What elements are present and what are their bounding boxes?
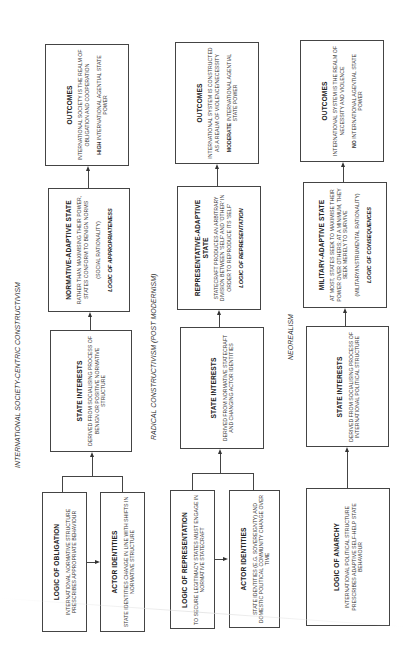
interests-title: STATE INTERESTS xyxy=(335,330,343,443)
state-title: REPRESENTATIVE-ADAPTIVE STATE xyxy=(194,190,209,306)
outcomes-title: OUTCOMES xyxy=(196,46,204,160)
interests-box-isc: STATE INTERESTS DERIVED FROM SOCIALISING… xyxy=(50,330,132,452)
logic-box-nr: LOGIC OF ANARCHY INTERNATIONAL POLITICAL… xyxy=(306,488,390,626)
outcomes-title: OUTCOMES xyxy=(66,48,74,162)
state-desc: STATECRAFT PRODUCES AN ARBITRARY DIVISIO… xyxy=(213,190,232,306)
state-logic: LOGIC OF APPROPRIATENESS xyxy=(107,192,113,308)
outcomes-power: NO INTERNATIONAL AGENTIAL STATE POWER xyxy=(351,44,363,158)
connector xyxy=(62,476,63,492)
arrow-up-icon xyxy=(88,312,92,317)
outcomes-box-nr: OUTCOMES INTERNATIONAL SYSTEM IS THE REA… xyxy=(300,40,384,162)
outcomes-box-rc: OUTCOMES INTERNATIONAL SYSTEM IS CONSTRU… xyxy=(175,42,259,164)
identities-box-isc: ACTOR IDENTITIES STATE IDENTITIES CHANGE… xyxy=(100,492,145,632)
logic-title: LOGIC OF REPRESENTATION xyxy=(180,494,188,625)
interests-desc: DERIVED FROM NORMATIVE STATECRAFT AND CH… xyxy=(222,331,234,445)
logic-box-isc: LOGIC OF OBLIGATION INTERNATIONAL NORMAT… xyxy=(42,492,87,632)
connector xyxy=(343,166,344,182)
state-box-isc: NORMATIVE-ADAPTIVE STATE RATHER THAN MAX… xyxy=(48,188,130,312)
interests-title: STATE INTERESTS xyxy=(210,331,218,445)
logic-title: LOGIC OF ANARCHY xyxy=(333,492,341,622)
outcomes-power: MODERATE INTERNATIONAL AGENTIAL STATE PO… xyxy=(226,46,238,160)
connector xyxy=(192,473,193,490)
connector xyxy=(217,168,218,186)
state-box-nr: MILITARY-ADAPTIVE STATE AT MOST, STATES … xyxy=(303,182,387,308)
connector xyxy=(253,473,254,490)
connector xyxy=(92,456,93,476)
outcomes-power: HIGH INTERNATIONAL AGENTIAL STATE POWER xyxy=(96,48,108,162)
interests-desc: DERIVED FROM SOCIALISING PROCESS OF BENI… xyxy=(87,334,106,448)
interests-desc: DERIVED FROM SOCIALISING PROCESS OF INTE… xyxy=(347,330,359,443)
column-title-nr: NEOREALISM xyxy=(287,314,294,360)
state-rationality: (SOCIAL RATIONALITY) xyxy=(95,192,101,308)
outcomes-desc: INTERNATIONAL SYSTEM IS THE REALM OF NEC… xyxy=(332,44,344,158)
state-desc: AT MOST, STATES SEEK TO MAXIMISE THEIR P… xyxy=(329,186,348,304)
state-logic: LOGIC OF CONSEQUENCES xyxy=(366,186,372,304)
arrow-up-icon xyxy=(217,310,221,315)
state-box-rc: REPRESENTATIVE-ADAPTIVE STATE STATECRAFT… xyxy=(177,186,261,310)
connector xyxy=(90,316,91,330)
column-title-rc: RADICAL CONSTRUCTIVISM (POST MODERNISM) xyxy=(150,274,157,440)
identities-title: ACTOR IDENTITIES xyxy=(110,496,118,628)
state-desc: RATHER THAN MAXIMISING THEIR POWER, STAT… xyxy=(76,192,88,308)
connector xyxy=(345,312,346,326)
arrow-up-icon xyxy=(345,447,349,452)
state-title: MILITARY-ADAPTIVE STATE xyxy=(318,186,326,304)
state-logic: LOGIC OF REPRESENTATION xyxy=(238,190,244,306)
arrow-up-icon xyxy=(343,308,347,313)
logic-desc: TO SECURE LEGITIMACY STATES MUST ENGAGE … xyxy=(192,494,204,625)
arrow-up-icon xyxy=(218,449,222,454)
connector xyxy=(219,314,220,327)
arrow-up-icon xyxy=(90,452,94,457)
state-title: NORMATIVE-ADAPTIVE STATE xyxy=(65,192,73,308)
arrow-up-icon xyxy=(215,164,219,169)
connector xyxy=(62,476,123,477)
connector xyxy=(192,473,254,474)
outcomes-box-isc: OUTCOMES INTERNATIONAL SOCIETY IS THE RE… xyxy=(45,44,129,166)
identities-box-rc: ACTOR IDENTITIES STATE IDENTITIES (E.G. … xyxy=(229,490,280,628)
logic-title: LOGIC OF OBLIGATION xyxy=(52,496,60,628)
identities-title: ACTOR IDENTITIES xyxy=(239,494,247,624)
connector xyxy=(122,476,123,492)
interests-box-rc: STATE INTERESTS DERIVED FROM NORMATIVE S… xyxy=(180,327,264,449)
column-title-isc: INTERNATIONAL SOCIETY-CENTRIC CONSTRUCTI… xyxy=(14,282,21,468)
outcomes-title: OUTCOMES xyxy=(321,44,329,158)
outcomes-desc: INTERNATIONAL SOCIETY IS THE REALM OF OB… xyxy=(77,48,89,162)
connector xyxy=(220,453,221,473)
arrow-right-icon xyxy=(223,557,228,561)
logic-desc: INTERNATIONAL POLITICAL STRUCTURE PRESCR… xyxy=(344,492,363,622)
identities-desc: STATE IDENTITIES CHANGE IN LINE WITH SHI… xyxy=(122,496,134,628)
connector xyxy=(347,451,348,488)
logic-desc: INTERNATIONAL NORMATIVE STRUCTURE PRESCR… xyxy=(64,496,76,628)
state-rationality: (MILITARY/INSTRUMENTAL RATIONALITY) xyxy=(354,186,360,304)
interests-title: STATE INTERESTS xyxy=(76,334,84,448)
interests-box-nr: STATE INTERESTS DERIVED FROM SOCIALISING… xyxy=(306,326,389,447)
arrow-up-icon xyxy=(86,166,90,171)
arrow-up-icon xyxy=(341,162,345,167)
outcomes-desc: INTERNATIONAL SYSTEM IS CONSTRUCTED AS A… xyxy=(207,46,219,160)
identities-desc: STATE IDENTITIES (E.G. SOVEREIGNTY) AND … xyxy=(251,494,270,624)
connector xyxy=(88,170,89,188)
logic-box-rc: LOGIC OF REPRESENTATION TO SECURE LEGITI… xyxy=(170,490,215,629)
